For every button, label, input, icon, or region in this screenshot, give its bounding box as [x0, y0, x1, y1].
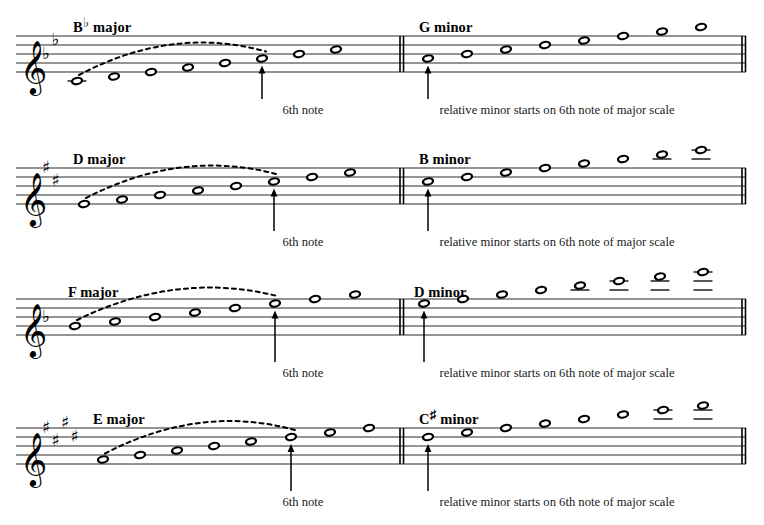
- major-note-3: [170, 445, 184, 456]
- major-note-4: [207, 441, 221, 452]
- sharp-accidental-1: ♯: [42, 417, 50, 437]
- sharp-accidental-2: ♯: [51, 430, 59, 450]
- music-notation-page: 𝄞♭♭B♭ majorG minor6th noterelative minor…: [0, 0, 764, 525]
- minor-note-3: [499, 423, 513, 434]
- major-key-label-suffix: major: [103, 411, 145, 427]
- minor-note-5: [577, 414, 591, 425]
- major-note-5: [244, 436, 258, 447]
- system-4-staff: 𝄞♯♯♯♯: [0, 0, 764, 525]
- treble-clef: 𝄞: [20, 432, 47, 488]
- major-note-8: [362, 423, 376, 434]
- minor-note-6: [616, 409, 630, 420]
- sixth-note-caption: 6th note: [283, 496, 324, 509]
- major-note-1: [96, 454, 110, 465]
- svg-text:𝄞: 𝄞: [20, 432, 47, 488]
- major-note-7: [323, 427, 337, 438]
- minor-note-1: [421, 432, 435, 443]
- major-key-label-letter: E: [93, 411, 103, 427]
- relative-minor-arrow: [425, 444, 432, 491]
- minor-note-2: [460, 427, 474, 438]
- minor-key-label: C♯ minor: [419, 412, 479, 427]
- minor-note-4: [538, 418, 552, 429]
- minor-note-8: [694, 400, 713, 419]
- sixth-note-arrow: [288, 444, 295, 491]
- major-key-label: E major: [93, 412, 145, 427]
- sharp-accidental-4: ♯: [70, 426, 78, 446]
- major-note-2: [133, 450, 147, 461]
- minor-key-label-suffix: minor: [436, 411, 478, 427]
- major-note-6: [284, 432, 298, 443]
- relative-minor-caption: relative minor starts on 6th note of maj…: [439, 496, 674, 509]
- sharp-accidental-3: ♯: [61, 412, 69, 432]
- minor-key-label-letter: C: [419, 411, 430, 427]
- minor-note-7: [654, 405, 673, 419]
